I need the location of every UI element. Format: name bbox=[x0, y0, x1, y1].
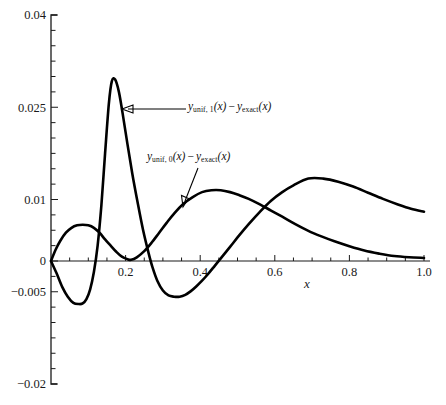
annot0-sub2: exact bbox=[201, 155, 218, 164]
annot1-sub1: unif, 1 bbox=[193, 105, 214, 114]
annot0-arg1: (x) bbox=[173, 150, 186, 162]
annot0-arg2: (x) bbox=[218, 150, 231, 162]
y-tick-label: 0.025 bbox=[18, 101, 46, 115]
x-axis-tick-labels: 0.20.40.60.81.0 bbox=[118, 265, 432, 279]
annot1-sub2: exact bbox=[242, 105, 259, 114]
annotation-label-unif1: yunif, 1(x)−yexact(x) bbox=[188, 101, 271, 114]
y-tick-label: 0.01 bbox=[24, 193, 46, 207]
y-tick-label: 0.04 bbox=[24, 8, 47, 22]
annot1-arg1: (x) bbox=[214, 100, 227, 112]
y-tick-label: 0 bbox=[40, 254, 46, 268]
annotation-leader-unif0 bbox=[182, 168, 199, 207]
curve-y-unif-0 bbox=[51, 190, 424, 261]
y-tick-label: −0.02 bbox=[17, 377, 46, 391]
annot1-arg2: (x) bbox=[259, 100, 272, 112]
x-axis-label: x bbox=[303, 276, 310, 291]
x-tick-label: 0.8 bbox=[342, 265, 358, 279]
annotation-label-unif0: yunif, 0(x)−yexact(x) bbox=[147, 151, 230, 164]
figure-container: 0.040.0250.010−0.005−0.02 0.20.40.60.81.… bbox=[0, 0, 446, 405]
annot0-sub1: unif, 0 bbox=[152, 155, 173, 164]
x-tick-label: 0.2 bbox=[118, 265, 134, 279]
annotation-leader-unif1 bbox=[122, 105, 186, 113]
y-tick-label: −0.005 bbox=[11, 285, 46, 299]
y-axis-ticks bbox=[51, 15, 58, 384]
y-axis-tick-labels: 0.040.0250.010−0.005−0.02 bbox=[11, 8, 47, 391]
x-tick-label: 1.0 bbox=[416, 265, 432, 279]
annot1-operator: − bbox=[226, 100, 237, 112]
annot0-operator: − bbox=[185, 150, 196, 162]
chart-canvas: 0.040.0250.010−0.005−0.02 0.20.40.60.81.… bbox=[0, 0, 446, 405]
x-tick-label: 0.6 bbox=[267, 265, 283, 279]
